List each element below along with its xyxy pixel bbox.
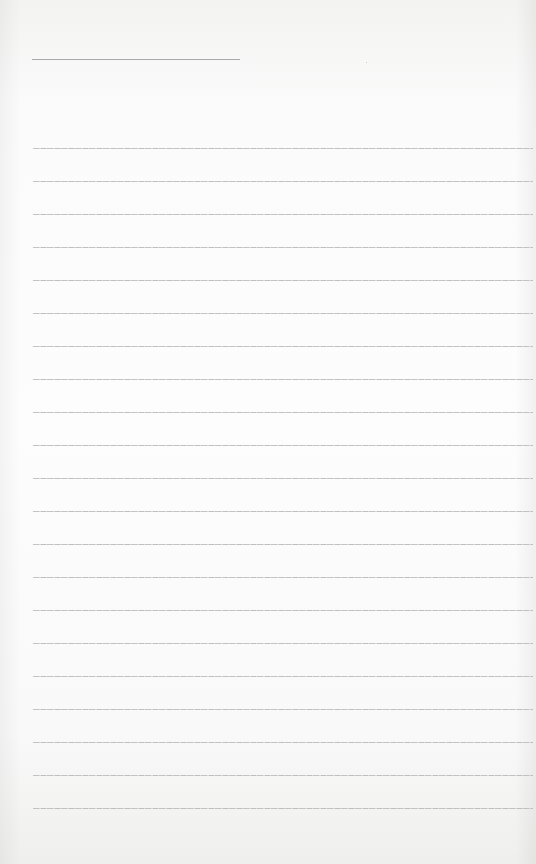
ruled-line — [33, 676, 533, 677]
ruled-line — [33, 346, 533, 347]
ruled-line — [33, 643, 533, 644]
ruled-line — [33, 610, 533, 611]
ruled-line — [33, 181, 533, 182]
paper-speck — [366, 62, 367, 63]
header-line — [32, 59, 240, 60]
ruled-line — [33, 478, 533, 479]
ruled-line — [33, 280, 533, 281]
ruled-line — [33, 808, 533, 809]
ruled-line — [33, 412, 533, 413]
ruled-line — [33, 379, 533, 380]
ruled-line — [33, 709, 533, 710]
ruled-line — [33, 577, 533, 578]
ruled-line — [33, 544, 533, 545]
ruled-line — [33, 313, 533, 314]
ruled-line — [33, 742, 533, 743]
lined-paper-sheet — [0, 0, 536, 864]
ruled-line — [33, 775, 533, 776]
ruled-line — [33, 445, 533, 446]
ruled-line — [33, 214, 533, 215]
ruled-line — [33, 247, 533, 248]
ruled-line — [33, 148, 533, 149]
ruled-line — [33, 511, 533, 512]
